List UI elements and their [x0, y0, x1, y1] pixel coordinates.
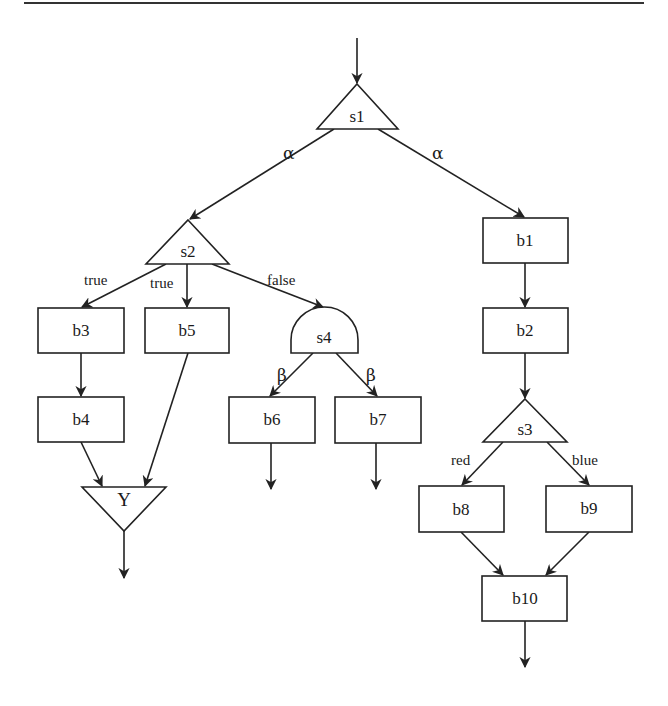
- edge-label-s1-b1: α: [432, 143, 444, 163]
- edge-b8-b10: [461, 532, 503, 575]
- node-b6-label: b6: [264, 410, 281, 429]
- edge-label-s2-b5: true: [150, 275, 174, 291]
- edge-b9-b10: [546, 532, 589, 575]
- node-b3-label: b3: [73, 321, 90, 340]
- node-y-label: Y: [117, 489, 131, 510]
- node-b1-label: b1: [517, 231, 534, 250]
- node-b9: b9: [546, 486, 632, 532]
- edge-s1-b1: [378, 129, 524, 217]
- node-s4: s4: [291, 307, 358, 353]
- edge-label-s3-b9: blue: [572, 452, 598, 468]
- node-b2: b2: [483, 308, 568, 353]
- node-b7-label: b7: [370, 410, 388, 429]
- node-s4-label: s4: [316, 328, 332, 347]
- node-s2: s2: [146, 220, 229, 264]
- node-b8: b8: [419, 486, 504, 532]
- node-s3: s3: [483, 399, 567, 442]
- edge-label-s4-b6: β: [277, 365, 287, 385]
- edge-b4-y: [81, 442, 102, 486]
- node-b10-label: b10: [512, 589, 538, 608]
- node-b4: b4: [38, 397, 124, 442]
- node-b5-label: b5: [179, 321, 196, 340]
- edge-label-s4-b7: β: [366, 365, 376, 385]
- node-y: Y: [82, 487, 166, 531]
- flow-diagram: s1 s2 s3 s4 Y b1 b2 b3 b4 b5 b6 b7: [0, 0, 668, 706]
- node-b7: b7: [335, 397, 421, 443]
- node-b2-label: b2: [517, 321, 534, 340]
- node-b4-label: b4: [73, 410, 91, 429]
- edge-label-s2-b3: true: [84, 272, 108, 288]
- edge-label-s3-b8: red: [451, 452, 471, 468]
- node-s2-label: s2: [180, 242, 195, 261]
- node-s3-label: s3: [517, 420, 532, 439]
- node-b1: b1: [483, 218, 568, 263]
- node-b3: b3: [38, 308, 124, 353]
- node-s1: s1: [317, 84, 398, 129]
- node-s1-label: s1: [349, 107, 364, 126]
- edge-label-s2-s4: false: [267, 272, 296, 288]
- node-b6: b6: [229, 397, 315, 443]
- edge-label-s1-s2: α: [283, 143, 295, 163]
- node-b5: b5: [145, 308, 229, 353]
- node-b9-label: b9: [581, 499, 598, 518]
- node-b10: b10: [482, 576, 567, 621]
- edge-b5-y: [145, 353, 188, 486]
- node-b8-label: b8: [453, 500, 470, 519]
- edge-s1-s2: [190, 129, 334, 219]
